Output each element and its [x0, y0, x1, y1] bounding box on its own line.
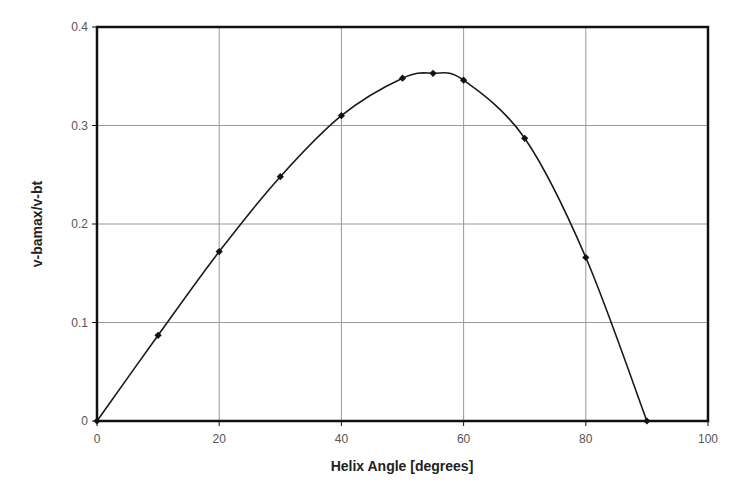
x-tick-label: 40 [335, 432, 349, 446]
x-tick-label: 0 [94, 432, 101, 446]
grid-lines [97, 27, 708, 421]
y-axis-ticks: 00.10.20.30.4 [71, 20, 97, 428]
data-point-marker [399, 75, 406, 82]
x-axis-title: Helix Angle [degrees] [331, 458, 474, 474]
y-tick-label: 0.3 [71, 119, 88, 133]
x-tick-label: 80 [579, 432, 593, 446]
data-point-marker [429, 70, 436, 77]
data-markers [93, 70, 650, 425]
x-tick-label: 60 [457, 432, 471, 446]
y-tick-label: 0.2 [71, 217, 88, 231]
data-line [97, 73, 647, 421]
y-tick-label: 0.4 [71, 20, 88, 34]
x-tick-label: 100 [698, 432, 718, 446]
y-axis-title: v-bamax/v-bt [29, 180, 45, 267]
y-tick-label: 0 [81, 414, 88, 428]
data-point-marker [582, 254, 589, 261]
x-axis-ticks: 020406080100 [94, 421, 719, 446]
chart: 020406080100 00.10.20.30.4 Helix Angle [… [0, 0, 753, 504]
y-tick-label: 0.1 [71, 316, 88, 330]
data-point-marker [643, 417, 650, 424]
x-tick-label: 20 [213, 432, 227, 446]
